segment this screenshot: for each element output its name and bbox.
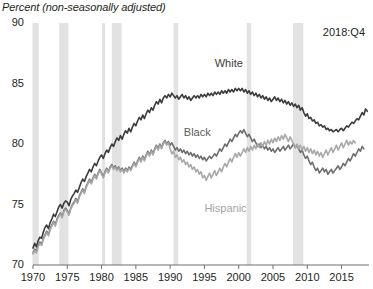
y-tick-label: 90 xyxy=(2,17,24,28)
recession-band xyxy=(112,23,122,265)
x-tick-label: 2015 xyxy=(324,271,360,283)
x-tick-label: 1970 xyxy=(15,271,51,283)
recession-band xyxy=(102,23,105,265)
y-tick-label: 80 xyxy=(2,138,24,149)
recession-band xyxy=(174,23,179,265)
recession-band xyxy=(59,23,68,265)
recession-band xyxy=(247,23,252,265)
x-tick-label: 1980 xyxy=(84,271,120,283)
y-tick-label: 70 xyxy=(2,259,24,270)
x-tick-label: 2010 xyxy=(289,271,325,283)
recession-band xyxy=(293,23,303,265)
series-label-hispanic: Hispanic xyxy=(204,202,246,214)
series-line-hispanic xyxy=(33,134,355,254)
y-tick-label: 85 xyxy=(2,78,24,89)
series-group xyxy=(33,88,367,254)
recession-band xyxy=(32,23,38,265)
x-tick-label: 1975 xyxy=(49,271,85,283)
x-tick-label: 2000 xyxy=(221,271,257,283)
series-label-black: Black xyxy=(184,126,211,138)
plot-area xyxy=(0,0,373,289)
y-tick-label: 75 xyxy=(2,199,24,210)
x-tick-label: 1995 xyxy=(186,271,222,283)
series-label-white: White xyxy=(215,57,243,69)
axis-group xyxy=(33,265,369,269)
x-tick-label: 1985 xyxy=(118,271,154,283)
chart-container: Percent (non-seasonally adjusted) 2018:Q… xyxy=(0,0,373,289)
x-tick-label: 1990 xyxy=(152,271,188,283)
x-tick-label: 2005 xyxy=(255,271,291,283)
